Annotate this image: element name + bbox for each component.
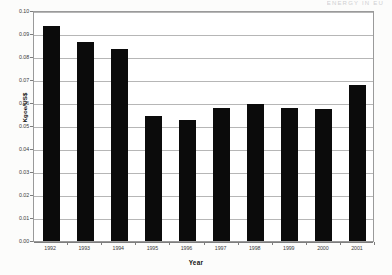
bar — [179, 120, 196, 241]
bar — [315, 109, 332, 241]
y-axis-tick-mark — [30, 172, 33, 173]
bar-chart: 0.100.090.080.070.060.050.040.030.020.01… — [0, 0, 392, 275]
y-axis-tick-label: 0.01 — [3, 215, 29, 221]
x-axis-tick-label: 1994 — [104, 245, 132, 252]
bar — [145, 116, 162, 241]
bar — [111, 49, 128, 241]
x-axis-tick-mark — [272, 242, 273, 245]
x-axis-tick-mark — [67, 242, 68, 245]
y-axis-tick-mark — [30, 195, 33, 196]
bar — [77, 42, 94, 241]
y-axis-tick-label: 0.02 — [3, 192, 29, 198]
y-axis-tick-mark — [30, 57, 33, 58]
y-axis-tick-label: 0.00 — [3, 238, 29, 244]
bar-series — [34, 12, 373, 241]
x-axis-tick-label: 1996 — [172, 245, 200, 252]
x-axis-tick-mark — [340, 242, 341, 245]
x-axis-tick-mark — [204, 242, 205, 245]
bar — [349, 85, 366, 241]
y-axis-tick-label: 0.04 — [3, 146, 29, 152]
x-axis-tick-label: 2001 — [343, 245, 371, 252]
bar — [247, 104, 264, 241]
y-axis-tick-mark — [30, 126, 33, 127]
x-axis-tick-label: 1997 — [207, 245, 235, 252]
y-axis-tick-label: 0.03 — [3, 169, 29, 175]
x-axis-tick-mark — [135, 242, 136, 245]
bar — [43, 26, 60, 241]
x-axis-tick-mark — [101, 242, 102, 245]
x-axis-tick-label: 2000 — [309, 245, 337, 252]
y-axis-tick-label: 0.10 — [3, 8, 29, 14]
y-axis-tick-mark — [30, 80, 33, 81]
y-axis-tick-mark — [30, 241, 33, 242]
y-axis-tick-label: 0.07 — [3, 77, 29, 83]
x-axis-tick-mark — [374, 242, 375, 245]
bar — [213, 108, 230, 241]
x-axis-tick-label: 1998 — [241, 245, 269, 252]
x-axis-tick-mark — [306, 242, 307, 245]
page-background: ENERGY IN EU 0.100.090.080.070.060.050.0… — [0, 0, 392, 275]
x-axis-tick-label: 1995 — [138, 245, 166, 252]
y-axis-tick-label: 0.09 — [3, 31, 29, 37]
plot-area — [33, 11, 374, 242]
x-axis-tick-label: 1992 — [36, 245, 64, 252]
y-axis-tick-mark — [30, 149, 33, 150]
y-axis-title: Kgoe/US$ — [21, 92, 28, 122]
x-axis-tick-label: 1999 — [275, 245, 303, 252]
bar — [281, 108, 298, 241]
x-axis-title: Year — [0, 259, 392, 266]
x-axis-tick-mark — [169, 242, 170, 245]
x-axis-tick-mark — [238, 242, 239, 245]
x-axis-tick-label: 1993 — [70, 245, 98, 252]
y-axis-tick-mark — [30, 11, 33, 12]
y-axis-tick-mark — [30, 103, 33, 104]
y-axis-tick-mark — [30, 34, 33, 35]
y-axis-tick-mark — [30, 218, 33, 219]
y-axis-tick-label: 0.08 — [3, 54, 29, 60]
y-axis-tick-label: 0.05 — [3, 123, 29, 129]
